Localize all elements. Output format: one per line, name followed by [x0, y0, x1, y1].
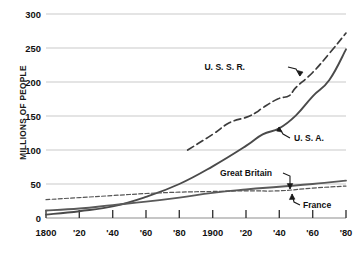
- y-tick-label-100: 100: [25, 145, 41, 156]
- x-tick-label-1840: '40: [106, 227, 119, 238]
- series-label-ussr: U. S. S. R.: [204, 62, 245, 72]
- x-tick-label-1980: '80: [340, 227, 353, 238]
- x-tick-label-1940: '40: [273, 227, 286, 238]
- x-tick-label-1800: 1800: [36, 227, 57, 238]
- usa-leader-line: [279, 127, 290, 138]
- france-arrowhead: [289, 194, 295, 200]
- x-axis-ticks: [46, 210, 346, 218]
- gridlines: [46, 14, 346, 184]
- series-line-france: [46, 186, 346, 200]
- population-line-chart: MILLIONS OF PEOPLE 30: [0, 0, 354, 253]
- data-series-layer: [46, 33, 346, 215]
- x-axis-tick-labels: 1800 '20 '40 '60 '80 1900 '20 '40 '60 '8…: [36, 227, 353, 238]
- chart-canvas: 300 250 200 150 100 50 0 1800 '20 '40 '6…: [0, 0, 354, 253]
- y-tick-label-200: 200: [25, 77, 41, 88]
- y-tick-label-250: 250: [25, 43, 41, 54]
- series-label-france: France: [303, 200, 331, 210]
- series-label-usa: U. S. A.: [294, 133, 324, 143]
- x-tick-label-1900: 1900: [202, 227, 223, 238]
- x-tick-label-1860: '60: [140, 227, 153, 238]
- x-tick-label-1820: '20: [73, 227, 86, 238]
- y-tick-label-300: 300: [25, 9, 41, 20]
- y-tick-label-50: 50: [31, 179, 41, 190]
- x-tick-label-1960: '60: [306, 227, 319, 238]
- x-tick-label-1920: '20: [240, 227, 253, 238]
- x-tick-label-1880: '80: [173, 227, 186, 238]
- y-tick-label-0: 0: [36, 213, 41, 224]
- series-label-great-britain: Great Britain: [220, 168, 272, 178]
- series-line-great-britain: [46, 181, 346, 211]
- y-tick-label-150: 150: [25, 111, 41, 122]
- y-axis-tick-labels: 300 250 200 150 100 50 0: [25, 9, 41, 224]
